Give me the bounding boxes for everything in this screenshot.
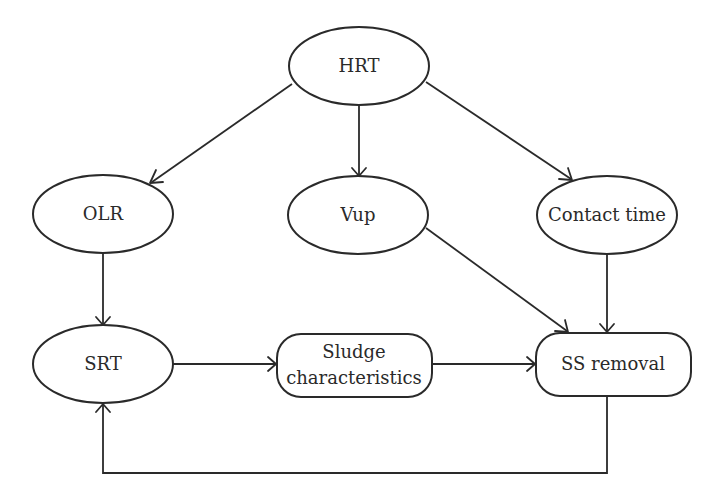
edge-vup-ss-removal — [426, 228, 568, 332]
node-ss-removal: SS removal — [536, 333, 691, 396]
hrt-label: HRT — [339, 55, 380, 76]
contact-time-label: Contact time — [548, 204, 666, 225]
node-contact-time: Contact time — [537, 176, 677, 254]
olr-label: OLR — [83, 203, 124, 224]
edge-hrt-contact-time — [426, 82, 572, 180]
flow-diagram: HRT OLR Vup Contact time SRT Sludge char… — [0, 0, 721, 501]
node-vup: Vup — [288, 176, 428, 254]
vup-label: Vup — [340, 204, 376, 225]
sludge-label-line1: Sludge — [322, 341, 385, 362]
edge-sludge-ss-removal — [432, 357, 535, 371]
sludge-label-line2: characteristics — [286, 367, 422, 388]
node-sludge-characteristics: Sludge characteristics — [277, 334, 432, 397]
edge-hrt-vup — [352, 105, 366, 176]
edge-olr-srt — [96, 253, 110, 325]
edge-contact-time-ss-removal — [600, 254, 614, 332]
node-hrt: HRT — [289, 27, 429, 105]
ss-removal-label: SS removal — [561, 353, 665, 374]
edge-hrt-olr — [150, 84, 292, 183]
edge-srt-sludge — [173, 357, 276, 371]
srt-label: SRT — [84, 353, 122, 374]
node-olr: OLR — [33, 175, 173, 253]
node-srt: SRT — [33, 325, 173, 403]
edge-ss-removal-srt-feedback — [96, 396, 607, 473]
